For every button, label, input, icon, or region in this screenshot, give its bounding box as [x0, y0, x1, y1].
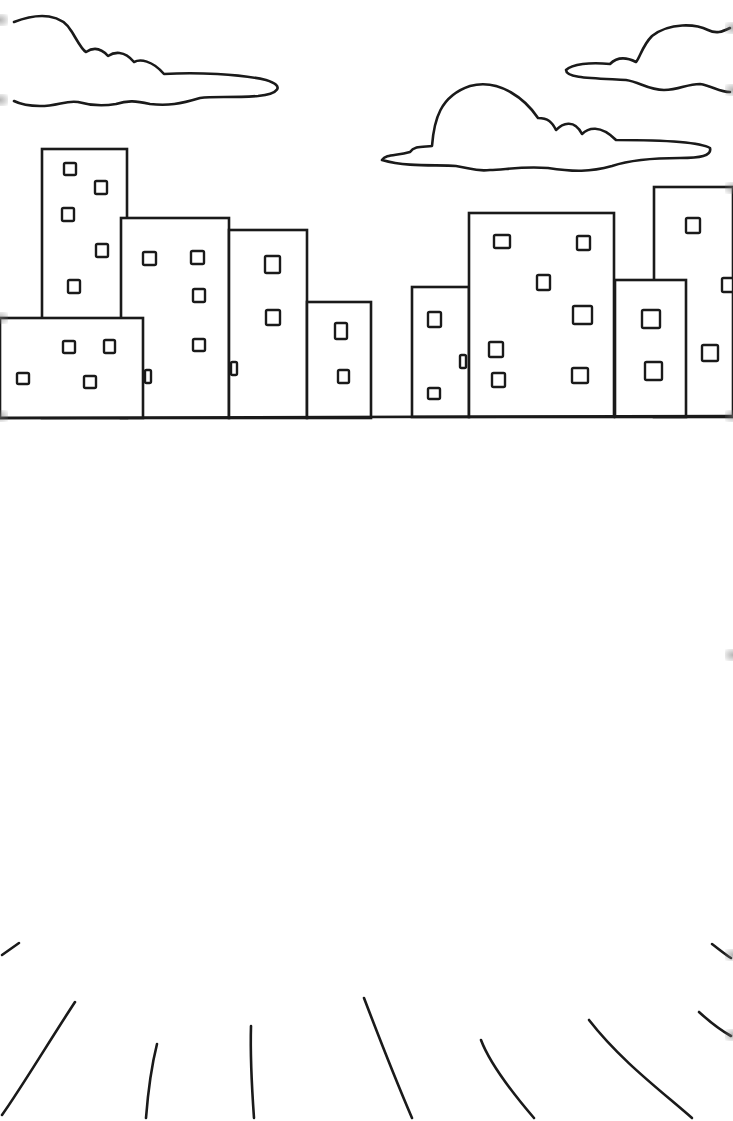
- edge-shadow-mark: [725, 1029, 733, 1041]
- window: [95, 181, 107, 194]
- window: [577, 236, 590, 250]
- window: [265, 256, 280, 273]
- ray-2: [2, 1002, 75, 1115]
- skyline-buildings-group: [0, 149, 733, 418]
- window: [686, 218, 700, 233]
- window: [68, 280, 80, 293]
- edge-shadow-mark: [725, 649, 733, 661]
- edge-shadow-mark: [725, 84, 733, 96]
- cloud-top-left-outline: [14, 16, 278, 106]
- window: [84, 376, 96, 388]
- building-low-left: [0, 318, 143, 418]
- window: [573, 306, 592, 324]
- window: [145, 370, 151, 383]
- window: [17, 373, 29, 384]
- window: [104, 340, 115, 353]
- edge-shadow-mark: [0, 94, 8, 106]
- window: [96, 244, 108, 257]
- window: [428, 388, 440, 399]
- window: [572, 368, 588, 383]
- window: [338, 370, 349, 383]
- ray-7: [589, 1020, 692, 1118]
- window: [191, 251, 204, 264]
- edge-shadow-mark: [0, 410, 8, 422]
- edge-shadow-mark: [725, 22, 733, 34]
- building-low-left-outline: [0, 318, 143, 418]
- window: [537, 275, 550, 290]
- window: [494, 235, 510, 248]
- ray-5: [364, 998, 412, 1118]
- window: [193, 339, 205, 351]
- window: [722, 278, 733, 292]
- edge-shadow-mark: [0, 312, 8, 324]
- window: [428, 312, 441, 327]
- window: [62, 208, 74, 221]
- building-narrow-right: [412, 287, 469, 417]
- edge-shadow-mark: [725, 182, 733, 194]
- ray-3: [146, 1044, 157, 1118]
- window: [63, 341, 75, 353]
- building-small-right-outline: [615, 280, 686, 417]
- building-wide-right: [469, 213, 614, 417]
- window: [460, 355, 466, 368]
- window: [645, 362, 662, 380]
- building-short: [307, 302, 371, 418]
- window: [64, 163, 76, 175]
- ray-1: [2, 943, 19, 955]
- sun-rays-group: [2, 943, 731, 1118]
- edge-shadow-mark: [0, 14, 8, 26]
- window: [193, 289, 205, 302]
- window: [231, 362, 237, 375]
- ray-6: [481, 1040, 534, 1118]
- window: [143, 252, 156, 265]
- window: [642, 310, 660, 328]
- clouds-group: [14, 16, 730, 171]
- building-short-outline: [307, 302, 371, 418]
- cloud-center-outline: [382, 84, 710, 170]
- window: [702, 345, 718, 361]
- window: [492, 373, 505, 387]
- edge-shadow-mark: [725, 410, 733, 422]
- building-small-right: [615, 280, 686, 417]
- coloring-page-canvas: [0, 0, 733, 1121]
- edge-shadow-mark: [725, 949, 733, 961]
- building-mid: [229, 230, 307, 418]
- ray-4: [251, 1026, 254, 1118]
- window: [489, 342, 503, 357]
- window: [335, 323, 347, 339]
- window: [266, 310, 280, 325]
- cloud-top-right-outline: [566, 25, 730, 92]
